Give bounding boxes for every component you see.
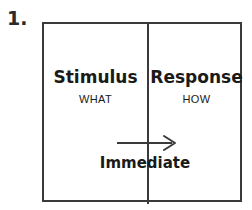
figure-root: 1. Stimulus WHAT Response HOW Immediate — [0, 0, 252, 210]
response-heading: Response — [149, 69, 244, 86]
cell-divider — [147, 24, 149, 204]
stimulus-response-diagram: Stimulus WHAT Response HOW — [42, 22, 242, 202]
stimulus-heading: Stimulus — [44, 69, 147, 86]
stimulus-subheading: WHAT — [44, 94, 147, 105]
diagram-cell-stimulus: Stimulus WHAT — [44, 24, 147, 204]
item-number-label: 1. — [7, 9, 27, 28]
flow-label: Immediate — [75, 156, 215, 171]
response-subheading: HOW — [149, 94, 244, 105]
diagram-cell-response: Response HOW — [149, 24, 244, 204]
